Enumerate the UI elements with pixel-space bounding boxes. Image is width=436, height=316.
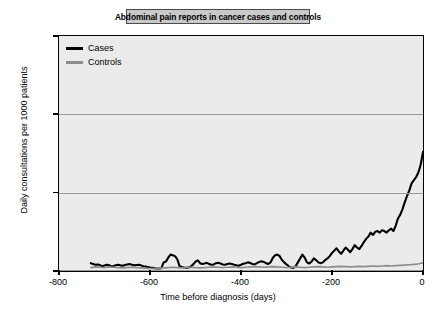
chart-title: Abdominal pain reports in cancer cases a… <box>115 12 321 22</box>
y-axis-label: Daily consultations per 1000 patients <box>19 30 29 250</box>
chart-legend: Cases Controls <box>66 44 122 67</box>
x-tick-mark-0 <box>422 270 424 275</box>
plot-inner <box>59 36 423 271</box>
chart-figure: Abdominal pain reports in cancer cases a… <box>0 0 436 316</box>
y-tick-mark-5 <box>53 192 58 194</box>
chart-title-box: Abdominal pain reports in cancer cases a… <box>126 9 310 24</box>
x-tick-label--600: -600 <box>127 277 171 287</box>
x-tick-label--800: -800 <box>36 277 80 287</box>
x-tick-mark--800 <box>58 270 60 275</box>
x-tick-label--200: -200 <box>309 277 353 287</box>
x-tick-mark--600 <box>149 270 151 275</box>
y-tick-mark-15 <box>53 35 58 37</box>
legend-item-cases: Cases <box>66 44 122 53</box>
plot-area <box>58 35 424 272</box>
y-tick-mark-10 <box>53 113 58 115</box>
x-tick-mark--200 <box>331 270 333 275</box>
legend-item-controls: Controls <box>66 58 122 67</box>
plot-svg <box>59 36 423 271</box>
x-axis-label: Time before diagnosis (days) <box>0 292 436 302</box>
x-tick-mark--400 <box>240 270 242 275</box>
x-tick-label--400: -400 <box>218 277 262 287</box>
legend-label-controls: Controls <box>88 58 122 67</box>
legend-swatch-controls-icon <box>66 61 83 63</box>
gridline-y-5 <box>59 193 423 194</box>
legend-swatch-cases-icon <box>66 47 83 50</box>
x-tick-label-0: 0 <box>400 277 436 287</box>
series-line-cases <box>91 152 423 269</box>
legend-label-cases: Cases <box>88 44 114 53</box>
gridline-y-10 <box>59 114 423 115</box>
